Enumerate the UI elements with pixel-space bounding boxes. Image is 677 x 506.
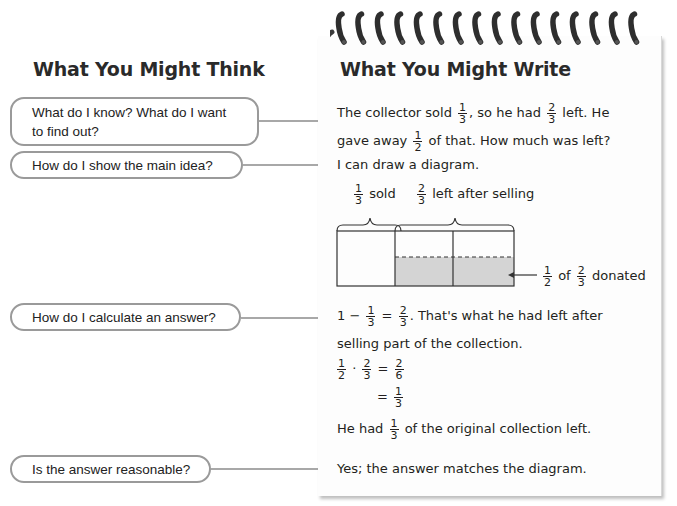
spiral-hole [420, 40, 424, 44]
spiral-coil [533, 14, 539, 42]
spiral-coil [631, 14, 637, 42]
arrow-icon [259, 120, 319, 122]
fraction: 12 [413, 130, 422, 153]
spiral-coil [455, 14, 461, 42]
fraction: 26 [395, 358, 404, 381]
spiral-coil [436, 14, 442, 42]
spiral-hole [381, 40, 385, 44]
spiral-hole [576, 40, 580, 44]
brace-left-icon [395, 218, 514, 231]
brace-sold-icon [337, 218, 401, 231]
fraction: 13 [390, 418, 399, 441]
spiral-hole [362, 40, 366, 44]
denominator: 2 [543, 277, 552, 288]
think-column-title: What You Might Think [33, 58, 265, 80]
spiral-coil [397, 14, 403, 42]
question-bubble-calculate: How do I calculate an answer? [10, 303, 241, 331]
fraction: 12 [337, 358, 346, 381]
write-column-title: What You Might Write [340, 58, 571, 80]
denominator: 3 [399, 317, 408, 328]
answer-text: selling part of the collection. [337, 336, 523, 351]
fraction: 23 [362, 358, 371, 381]
denominator: 3 [577, 277, 586, 288]
fraction: 13 [458, 102, 467, 125]
answer-line: I can draw a diagram. [337, 157, 479, 172]
fraction: 23 [577, 265, 586, 288]
spiral-coil [572, 14, 578, 42]
answer-text: He had [337, 421, 383, 436]
spiral-hole [557, 40, 561, 44]
arrow-icon [241, 317, 319, 319]
spiral-coil [475, 14, 481, 42]
spiral-coil [592, 14, 598, 42]
spiral-coil [416, 14, 422, 42]
spiral-coil [494, 14, 500, 42]
answer-text: = [378, 361, 389, 376]
spiral-coil [377, 14, 383, 42]
fraction: 13 [366, 305, 375, 328]
spiral-hole [615, 40, 619, 44]
arrow-icon [211, 468, 319, 470]
fraction: 13 [394, 386, 403, 409]
spiral-coil [514, 14, 520, 42]
answer-text: = [382, 308, 393, 323]
denominator: 3 [547, 114, 556, 125]
denominator: 3 [390, 430, 399, 441]
answer-text: 1 − [337, 308, 360, 323]
spiral-hole [342, 40, 346, 44]
answer-text: · [352, 361, 356, 376]
diagram-text: of [558, 268, 571, 283]
question-text: How do I show the main idea? [32, 156, 227, 175]
diagram-text: sold [369, 186, 396, 201]
spiral-coil [338, 14, 344, 42]
answer-text: . That's what he had left after [410, 308, 603, 323]
spiral-coil [358, 14, 364, 42]
spiral-coil [611, 14, 617, 42]
arrow-icon [243, 164, 319, 166]
denominator: 3 [458, 114, 467, 125]
spiral-hole [537, 40, 541, 44]
answer-text: left. He [562, 105, 609, 120]
spiral-hole [479, 40, 483, 44]
answer-text: gave away [337, 133, 407, 148]
diagram-text: left after selling [432, 186, 534, 201]
fraction: 12 [543, 265, 552, 288]
spiral-hole [498, 40, 502, 44]
diagram-label-donated: 12 of 23 donated [541, 265, 646, 288]
answer-line: Yes; the answer matches the diagram. [337, 461, 587, 476]
spiral-hole [440, 40, 444, 44]
spiral-hole [596, 40, 600, 44]
question-bubble-reasonable: Is the answer reasonable? [10, 455, 211, 483]
question-text: What do I know? What do I want [32, 103, 243, 122]
answer-line: selling part of the collection. [337, 336, 523, 351]
answer-text: of the original collection left. [405, 421, 592, 436]
denominator: 3 [362, 370, 371, 381]
answer-line: He had 13 of the original collection lef… [337, 418, 591, 441]
question-bubble-main-idea: How do I show the main idea? [10, 151, 243, 179]
spiral-binding-icon [330, 10, 660, 46]
denominator: 6 [395, 370, 404, 381]
question-text: Is the answer reasonable? [32, 460, 195, 479]
denominator: 2 [337, 370, 346, 381]
denominator: 3 [366, 317, 375, 328]
fraction: 23 [547, 102, 556, 125]
answer-line: 1 − 13 = 23. That's what he had left aft… [337, 305, 603, 328]
answer-text: Yes; the answer matches the diagram. [337, 461, 587, 476]
denominator: 3 [394, 398, 403, 409]
donated-shaded-region [395, 257, 514, 286]
question-text: How do I calculate an answer? [32, 308, 225, 327]
diagram-text: donated [592, 268, 646, 283]
spiral-hole [518, 40, 522, 44]
answer-text: The collector sold [337, 105, 452, 120]
denominator: 2 [413, 142, 422, 153]
question-text: to find out? [32, 122, 243, 141]
answer-text: of that. How much was left? [429, 133, 611, 148]
calculation-line: 12 · 23 = 26 [335, 358, 406, 381]
calculation-line: = 13 [377, 386, 405, 409]
fraction: 23 [399, 305, 408, 328]
answer-line: gave away 12 of that. How much was left? [337, 130, 610, 153]
spiral-hole [459, 40, 463, 44]
spiral-hole [401, 40, 405, 44]
answer-text: = [377, 389, 388, 404]
spiral-coil [553, 14, 559, 42]
